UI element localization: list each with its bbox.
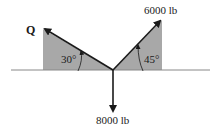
force-q-label: Q (26, 23, 35, 37)
force-8000-label: 8000 lb (96, 114, 130, 126)
angle-30-label: 30° (61, 53, 76, 65)
force-diagram: Q 6000 lb 8000 lb 30° 45° (0, 0, 217, 134)
force-6000-label: 6000 lb (144, 4, 178, 16)
angle-45-label: 45° (144, 53, 159, 65)
